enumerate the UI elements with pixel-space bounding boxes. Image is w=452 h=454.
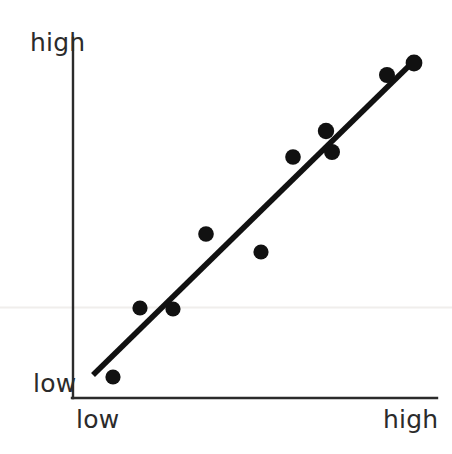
x-axis-tick-label-low: low xyxy=(76,407,119,432)
data-point xyxy=(165,301,180,316)
data-point xyxy=(198,226,214,242)
data-point xyxy=(285,149,301,165)
data-point xyxy=(318,123,334,139)
data-point xyxy=(406,55,423,72)
data-point xyxy=(105,369,120,384)
data-point-group xyxy=(105,55,422,385)
trend-line xyxy=(93,60,415,375)
x-axis-tick-label-high: high xyxy=(383,407,438,432)
data-point xyxy=(253,244,268,259)
data-point xyxy=(379,67,395,83)
y-axis-tick-label-low: low xyxy=(33,371,76,396)
data-point xyxy=(324,144,340,160)
data-point xyxy=(132,300,147,315)
y-axis-tick-label-high: high xyxy=(30,30,85,55)
scatter-plot-figure: high low low high xyxy=(0,0,452,454)
